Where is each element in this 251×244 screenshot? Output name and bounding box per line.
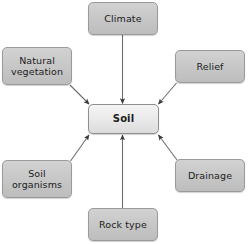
node-rock-type[interactable]: Rock type bbox=[88, 208, 158, 241]
node-soil-label: Soil bbox=[110, 113, 137, 125]
node-soil-organisms-label: Soil organisms bbox=[9, 168, 65, 191]
node-rock-type-label: Rock type bbox=[96, 219, 150, 231]
connector-drainage-to-soil bbox=[159, 135, 178, 160]
node-natural-vegetation[interactable]: Natural vegetation bbox=[2, 47, 72, 85]
connector-soil-organisms-to-soil bbox=[71, 135, 90, 161]
node-drainage-label: Drainage bbox=[185, 170, 235, 182]
node-climate-label: Climate bbox=[101, 13, 144, 25]
node-soil-organisms[interactable]: Soil organisms bbox=[2, 160, 72, 198]
node-natural-vegetation-label: Natural vegetation bbox=[8, 55, 66, 78]
node-drainage[interactable]: Drainage bbox=[175, 159, 245, 192]
node-soil-center[interactable]: Soil bbox=[88, 104, 159, 134]
node-climate[interactable]: Climate bbox=[88, 2, 158, 35]
connector-relief-to-soil bbox=[159, 83, 177, 104]
soil-formation-diagram: Climate Natural vegetation Relief Soil S… bbox=[0, 0, 251, 244]
node-relief[interactable]: Relief bbox=[175, 50, 245, 83]
node-relief-label: Relief bbox=[193, 61, 226, 73]
connector-natural-veg-to-soil bbox=[70, 85, 89, 104]
